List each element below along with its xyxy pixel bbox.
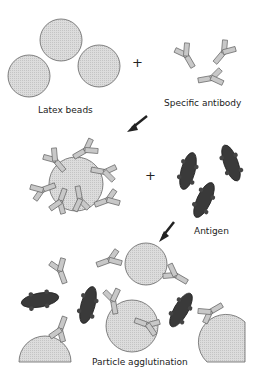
diagram-canvas [0, 0, 258, 372]
coated-bead-group [28, 137, 121, 216]
latex-bead [40, 19, 82, 61]
antigen-label: Antigen [194, 226, 229, 236]
latex-beads-group [8, 19, 120, 97]
arrow-icon [127, 116, 147, 132]
plus-sign: + [132, 55, 143, 70]
agglutination-diagram: + + Latex beads Specific antibody Antige… [0, 0, 258, 372]
agglutination-lattice [19, 243, 245, 362]
particle-agglutination-label: Particle agglutination [92, 357, 188, 367]
arrow-icon [159, 222, 174, 242]
specific-antibody-group [173, 38, 238, 90]
antigen-group [174, 142, 246, 221]
latex-bead [8, 55, 50, 97]
plus-sign: + [145, 168, 156, 183]
specific-antibody-label: Specific antibody [164, 98, 241, 108]
latex-bead [78, 45, 120, 87]
latex-beads-label: Latex beads [38, 105, 93, 115]
